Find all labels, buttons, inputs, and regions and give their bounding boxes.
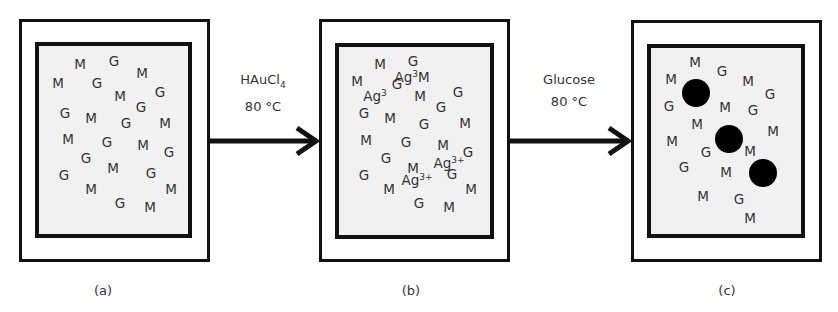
arrows-layer [0,0,838,312]
reagent-name: Glucose [543,72,595,87]
reagent-label-1: HAuCl4 80 °C [240,69,285,118]
reagent-subscript: 4 [280,80,286,90]
reagent-label-2: Glucose 80 °C [543,69,595,113]
reagent-temperature: 80 °C [245,99,281,114]
reagent-temperature: 80 °C [551,94,587,109]
arrow-1 [210,128,316,154]
arrow-2 [510,128,628,154]
reagent-name: HAuCl [240,72,280,87]
